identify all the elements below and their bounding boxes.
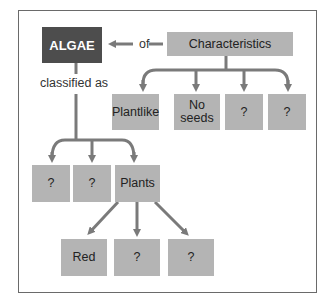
plants-unknown-box: ? <box>168 239 214 276</box>
characteristic-unknown-box: ? <box>268 94 306 130</box>
plants-unknown-box: ? <box>114 239 160 276</box>
algae-box: ALGAE <box>42 27 102 63</box>
classified-as-label: classified as <box>40 76 108 90</box>
characteristics-box: Characteristics <box>167 32 293 56</box>
characteristic-no-seeds-box: No seeds <box>174 94 220 130</box>
plants-box: Plants <box>115 165 160 202</box>
plants-red-box: Red <box>61 239 107 276</box>
classification-unknown-box: ? <box>32 165 70 202</box>
classification-unknown-box: ? <box>73 165 111 202</box>
characteristic-unknown-box: ? <box>225 94 263 130</box>
of-label: of <box>139 37 149 51</box>
characteristic-plantlike-box: Plantlike <box>112 94 159 130</box>
